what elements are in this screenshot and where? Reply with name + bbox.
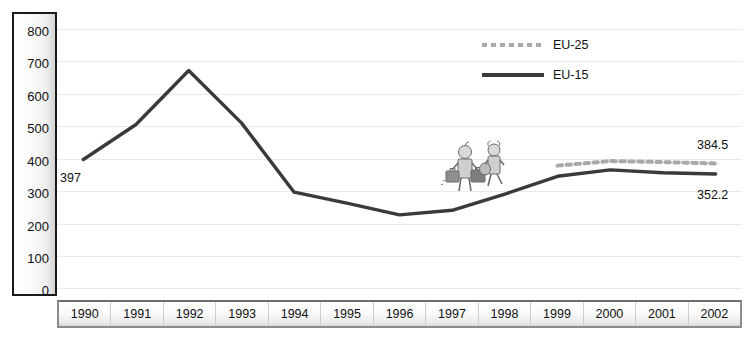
x-tick-1995: 1995 xyxy=(321,302,373,326)
x-tick-2002: 2002 xyxy=(689,302,740,326)
legend-item-eu-25: EU-25 xyxy=(482,30,622,60)
y-tick-600: 600 xyxy=(27,90,49,103)
x-tick-1994: 1994 xyxy=(269,302,321,326)
y-tick-0: 0 xyxy=(42,284,49,297)
x-tick-1990: 1990 xyxy=(59,302,111,326)
legend-swatch-dashed-icon xyxy=(482,39,544,51)
y-axis: 800 700 600 500 400 300 200 100 0 xyxy=(12,12,57,296)
x-tick-1996: 1996 xyxy=(374,302,426,326)
series-canvas xyxy=(57,12,742,296)
legend-label-eu-15: EU-15 xyxy=(553,68,588,82)
legend-swatch-solid-icon xyxy=(482,69,544,81)
x-tick-1999: 1999 xyxy=(531,302,583,326)
x-axis: 1990 1991 1992 1993 1994 1995 1996 1997 … xyxy=(57,300,742,328)
y-tick-400: 400 xyxy=(27,155,49,168)
legend-item-eu-15: EU-15 xyxy=(482,60,622,90)
data-label-eu15-end: 352.2 xyxy=(697,188,728,202)
legend: EU-25 EU-15 xyxy=(482,30,622,90)
y-tick-800: 800 xyxy=(27,25,49,38)
x-tick-1992: 1992 xyxy=(164,302,216,326)
x-tick-1993: 1993 xyxy=(216,302,268,326)
data-label-eu25-end: 384.5 xyxy=(697,138,728,152)
series-line-eu-25 xyxy=(558,161,716,166)
y-tick-100: 100 xyxy=(27,252,49,265)
x-tick-2001: 2001 xyxy=(636,302,688,326)
x-tick-1997: 1997 xyxy=(426,302,478,326)
legend-label-eu-25: EU-25 xyxy=(553,38,588,52)
x-tick-2000: 2000 xyxy=(584,302,636,326)
y-tick-500: 500 xyxy=(27,122,49,135)
data-label-start-397: 397 xyxy=(60,171,81,185)
series-line-eu-15 xyxy=(83,70,715,214)
two-travellers-with-luggage-icon xyxy=(437,139,515,201)
y-tick-200: 200 xyxy=(27,220,49,233)
y-tick-300: 300 xyxy=(27,187,49,200)
plot-area xyxy=(57,12,742,296)
y-tick-700: 700 xyxy=(27,57,49,70)
chart-screenshot: 800 700 600 500 400 300 200 100 0 1990 1… xyxy=(0,0,748,337)
x-tick-1991: 1991 xyxy=(111,302,163,326)
x-tick-1998: 1998 xyxy=(479,302,531,326)
